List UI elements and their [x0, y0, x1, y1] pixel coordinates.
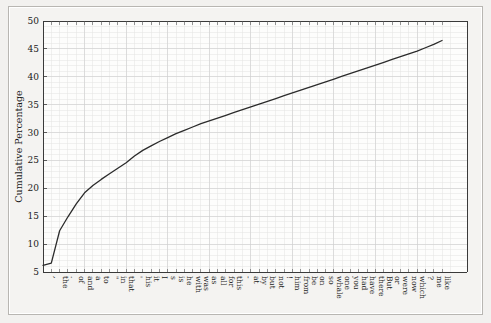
- chart-canvas: 5101520253035404550,the.ofandato"inthat'…: [0, 0, 491, 323]
- x-tick-label: it: [152, 276, 161, 281]
- x-tick-label: with: [194, 276, 203, 293]
- x-tick-label: ': [135, 276, 144, 278]
- x-tick-label: whale: [335, 276, 344, 299]
- x-tick-label: at: [252, 276, 261, 284]
- x-tick-label: .: [69, 276, 78, 278]
- plot-background: [43, 21, 467, 272]
- x-tick-label: but: [268, 276, 277, 289]
- x-tick-label: this: [235, 276, 244, 290]
- y-tick-label: 20: [28, 183, 40, 193]
- x-tick-label: there: [377, 276, 386, 297]
- x-tick-label: from: [302, 276, 311, 294]
- x-tick-label: like: [443, 276, 452, 290]
- x-tick-label: all: [219, 276, 228, 286]
- x-tick-label: one: [343, 276, 352, 290]
- x-tick-label: But: [385, 276, 394, 290]
- x-tick-label: that: [127, 276, 136, 292]
- y-tick-label: 45: [28, 44, 40, 54]
- x-tick-label: on: [318, 276, 327, 286]
- y-tick-label: 25: [28, 155, 40, 165]
- y-axis-title: Cumulative Percentage: [13, 90, 24, 203]
- x-tick-label: which: [418, 276, 427, 299]
- x-tick-label: to: [102, 276, 111, 284]
- x-tick-label: he: [185, 276, 194, 286]
- y-tick-label: 50: [28, 16, 40, 26]
- x-tick-label: were: [401, 276, 410, 296]
- x-tick-label: or: [393, 276, 402, 285]
- x-tick-label: not: [277, 276, 286, 289]
- x-tick-label: as: [210, 276, 219, 285]
- x-tick-label: so: [327, 276, 336, 285]
- x-tick-label: in: [119, 276, 128, 283]
- x-tick-label: now: [410, 276, 419, 292]
- x-tick-label: ,: [52, 276, 61, 278]
- x-tick-label: had: [360, 276, 369, 290]
- x-tick-label: -: [244, 276, 253, 279]
- y-tick-label: 40: [28, 72, 40, 82]
- x-tick-label: him: [293, 276, 302, 291]
- x-tick-label: ": [111, 276, 120, 280]
- y-tick-label: 5: [33, 267, 39, 277]
- x-tick-label: was: [202, 276, 211, 291]
- y-tick-label: 30: [28, 128, 40, 138]
- x-tick-label: s: [169, 276, 178, 280]
- screenshot-root: 5101520253035404550,the.ofandato"inthat'…: [0, 0, 491, 323]
- x-tick-label: his: [144, 276, 153, 287]
- x-tick-label: for: [227, 276, 236, 287]
- x-tick-label: I: [160, 276, 169, 279]
- x-tick-label: be: [310, 276, 319, 286]
- x-tick-label: me: [435, 276, 444, 288]
- cumulative-percentage-chart: 5101520253035404550,the.ofandato"inthat'…: [0, 0, 491, 323]
- x-tick-label: the: [61, 276, 70, 289]
- x-tick-label: have: [368, 276, 377, 295]
- x-tick-label: !: [285, 276, 294, 279]
- x-tick-label: a: [94, 276, 103, 281]
- x-tick-label: of: [77, 276, 86, 285]
- y-tick-label: 15: [28, 211, 40, 221]
- x-tick-label: and: [86, 276, 95, 290]
- x-tick-label: ?: [426, 276, 435, 280]
- x-tick-label: you: [352, 275, 361, 290]
- x-tick-label: by: [260, 276, 269, 286]
- y-tick-label: 35: [28, 100, 40, 110]
- x-tick-label: is: [177, 276, 186, 282]
- y-tick-label: 10: [28, 239, 40, 249]
